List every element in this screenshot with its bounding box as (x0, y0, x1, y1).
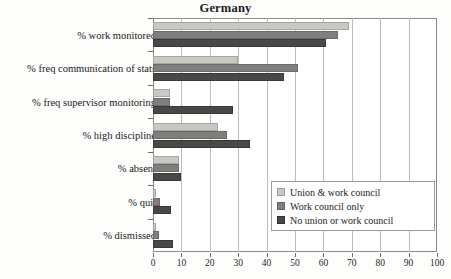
bar (153, 31, 338, 39)
legend-label: Work council only (290, 201, 364, 212)
y-tick-mark (148, 219, 153, 220)
x-tick-mark (409, 253, 410, 257)
y-axis-label: % freq supervisor monitoring (32, 96, 156, 107)
bar (153, 189, 156, 197)
x-tick-mark (238, 253, 239, 257)
legend-swatch-icon (277, 216, 285, 224)
x-tick-mark (153, 253, 154, 257)
y-tick-mark (148, 51, 153, 52)
x-tick-mark (267, 253, 268, 257)
bar (153, 140, 250, 148)
bar (153, 73, 284, 81)
bar (153, 22, 349, 30)
y-axis-label: % high discipline (83, 130, 157, 141)
x-tick-label: 90 (404, 258, 414, 268)
bar (153, 156, 179, 164)
bar (153, 240, 173, 248)
bar (153, 39, 326, 47)
y-tick-mark (148, 85, 153, 86)
gridline (238, 18, 239, 252)
y-axis-label: % work monitored (77, 29, 156, 40)
x-tick-mark (323, 253, 324, 257)
bar (153, 206, 171, 214)
y-tick-mark (148, 185, 153, 186)
gridline (267, 18, 268, 252)
x-tick-label: 50 (290, 258, 300, 268)
bar (153, 131, 227, 139)
x-tick-mark (437, 253, 438, 257)
y-tick-mark (148, 152, 153, 153)
x-tick-label: 100 (430, 258, 444, 268)
bar (153, 173, 181, 181)
legend-label: Union & work council (290, 187, 380, 198)
y-axis-label: % absent (118, 163, 156, 174)
y-axis-label: % dismissed (103, 230, 156, 241)
x-tick-label: 30 (233, 258, 243, 268)
x-tick-label: 20 (205, 258, 215, 268)
y-axis-label: % quit (128, 196, 156, 207)
bar (153, 231, 159, 239)
y-axis-label: % freq communication of stats (27, 63, 156, 74)
x-tick-mark (210, 253, 211, 257)
bar (153, 223, 156, 231)
legend: Union & work councilWork council onlyNo … (271, 181, 435, 231)
legend-label: No union or work council (290, 215, 393, 226)
x-tick-mark (380, 253, 381, 257)
bar (153, 198, 160, 206)
bar (153, 56, 238, 64)
bar (153, 64, 298, 72)
bar (153, 164, 179, 172)
x-tick-label: 40 (262, 258, 272, 268)
bar (153, 123, 218, 131)
x-tick-label: 70 (347, 258, 357, 268)
legend-swatch-icon (277, 202, 285, 210)
x-tick-mark (181, 253, 182, 257)
x-tick-label: 80 (375, 258, 385, 268)
x-tick-mark (352, 253, 353, 257)
bar (153, 89, 170, 97)
chart-container: Germany 0102030405060708090100 % work mo… (0, 0, 451, 279)
y-tick-mark (148, 118, 153, 119)
legend-item: Work council only (277, 199, 430, 213)
y-tick-mark (148, 18, 153, 19)
x-tick-label: 0 (151, 258, 156, 268)
x-tick-label: 10 (177, 258, 187, 268)
legend-item: Union & work council (277, 185, 430, 199)
legend-swatch-icon (277, 188, 285, 196)
x-tick-mark (295, 253, 296, 257)
bar (153, 98, 170, 106)
chart-title: Germany (0, 1, 451, 16)
legend-item: No union or work council (277, 213, 430, 227)
x-tick-label: 60 (319, 258, 329, 268)
bar (153, 106, 233, 114)
